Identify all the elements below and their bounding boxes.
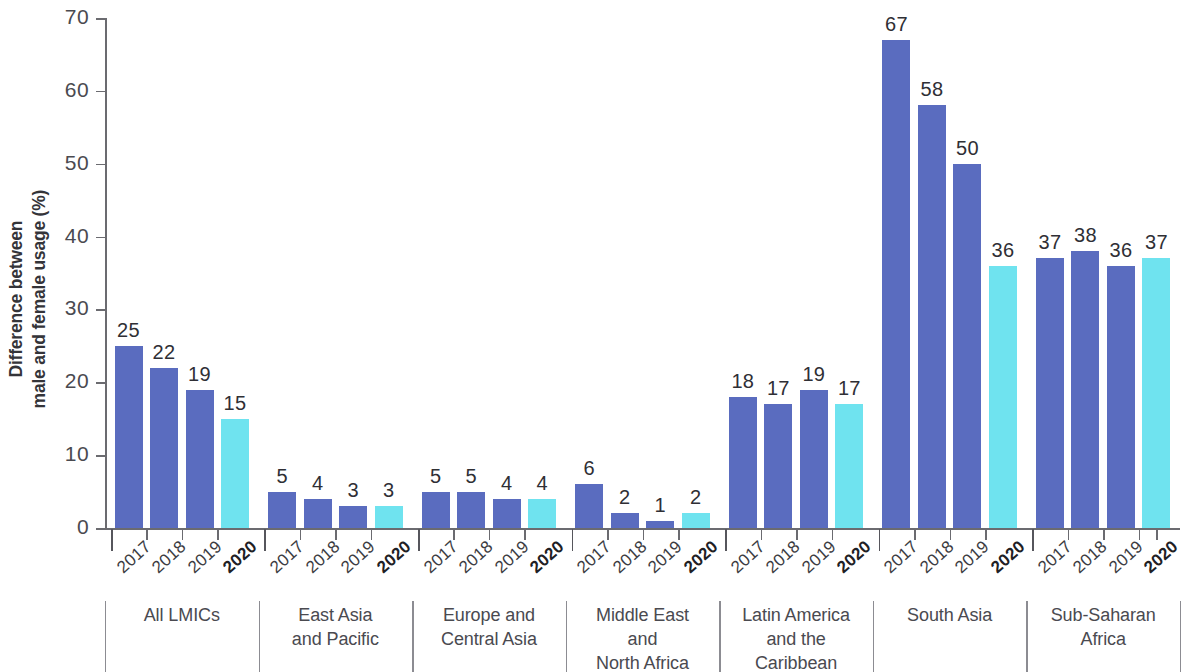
bar-rect (918, 105, 946, 528)
bar: 5 (268, 18, 296, 528)
x-axis-tick (796, 529, 798, 540)
bar: 3 (375, 18, 403, 528)
bar: 1 (646, 18, 674, 528)
bar-rect (1036, 258, 1064, 528)
x-axis-year-label: 2017 (881, 537, 923, 578)
x-axis-tick (489, 529, 491, 540)
bar-rect (115, 346, 143, 528)
y-axis-tick-label: 30 (41, 296, 89, 320)
group-name-line: and the (719, 628, 873, 652)
group-name-line: All LMICs (105, 604, 259, 628)
y-axis-tick-label: 60 (41, 78, 89, 102)
x-axis-tick (985, 529, 987, 540)
x-axis-year-label: 2018 (148, 537, 190, 578)
bar-rect (611, 513, 639, 528)
bar: 15 (221, 18, 249, 528)
group-name-line: South Asia (873, 604, 1027, 628)
x-axis-year-label: 2017 (420, 537, 462, 578)
bar: 17 (835, 18, 863, 528)
bar-value-label: 15 (224, 392, 247, 415)
bar-value-label: 1 (655, 494, 666, 517)
bar-value-label: 5 (276, 465, 287, 488)
bar-rect (339, 506, 367, 528)
y-axis-tick-label: 0 (41, 515, 89, 539)
bar-rect (1107, 266, 1135, 528)
bar-value-label: 3 (383, 479, 394, 502)
bar-rect (221, 419, 249, 528)
x-axis-year-label: 2019 (491, 537, 533, 578)
y-axis-tick: 0 (96, 528, 105, 530)
x-axis-tick (914, 529, 916, 540)
x-axis-year-label: 2017 (113, 537, 155, 578)
group-name-line: Central Asia (412, 628, 566, 652)
x-axis-tick (678, 529, 680, 540)
bar-value-label: 19 (188, 363, 211, 386)
bar-value-label: 37 (1039, 231, 1062, 254)
x-axis-tick (371, 529, 373, 540)
group-name-label: Sub-SaharanAfrica (1026, 604, 1180, 652)
x-axis-tick (832, 529, 834, 540)
group-name-label: Europe andCentral Asia (412, 604, 566, 652)
x-axis-tick (182, 529, 184, 540)
bar-rect (1142, 258, 1170, 528)
group-name-line: and (566, 628, 720, 652)
bar: 36 (1107, 18, 1135, 528)
x-axis-tick (1068, 529, 1070, 540)
bar: 5 (422, 18, 450, 528)
x-axis-group-tick (111, 529, 113, 551)
x-axis-year-label: 2019 (1105, 537, 1147, 578)
bar-value-label: 4 (312, 472, 323, 495)
x-axis-group-tick (1032, 529, 1034, 551)
group-name-label: Latin Americaand theCaribbean (719, 604, 873, 672)
x-axis-year-label: 2018 (916, 537, 958, 578)
x-axis-year-label: 2020 (526, 537, 568, 578)
bar-rect (375, 506, 403, 528)
bar: 4 (493, 18, 521, 528)
bar-value-label: 5 (430, 465, 441, 488)
group-name-line: Europe and (412, 604, 566, 628)
x-axis-group-tick (725, 529, 727, 551)
group-name-label: East Asiaand Pacific (259, 604, 413, 652)
group-name-line: Sub-Saharan (1026, 604, 1180, 628)
bars-container: 2522191554335544621218171917675850363738… (105, 18, 1180, 528)
bar: 67 (882, 18, 910, 528)
x-axis-year-label: 2018 (455, 537, 497, 578)
x-axis-tick (1156, 529, 1158, 540)
bar: 25 (115, 18, 143, 528)
bar: 19 (186, 18, 214, 528)
bar-value-label: 2 (619, 486, 630, 509)
x-axis-year-label: 2020 (219, 537, 261, 578)
x-axis-year-label: 2018 (302, 537, 344, 578)
y-axis-tick: 50 (96, 164, 105, 166)
x-axis-year-label: 2017 (727, 537, 769, 578)
group-name-label: All LMICs (105, 604, 259, 628)
x-axis-year-label: 2019 (645, 537, 687, 578)
bar: 18 (729, 18, 757, 528)
x-axis-year-label: 2019 (184, 537, 226, 578)
x-axis-tick (643, 529, 645, 540)
x-axis-year-label: 2020 (834, 537, 876, 578)
bar-rect (646, 521, 674, 528)
bar-value-label: 6 (584, 457, 595, 480)
bar-rect (1071, 251, 1099, 528)
bar-rect (268, 492, 296, 528)
bar-value-label: 17 (838, 377, 861, 400)
bar-value-label: 22 (153, 341, 176, 364)
y-axis-tick-label: 70 (41, 5, 89, 29)
x-axis-year-label: 2019 (798, 537, 840, 578)
bar: 17 (764, 18, 792, 528)
x-axis-group-tick (879, 529, 881, 551)
x-axis-tick (761, 529, 763, 540)
bar-value-label: 37 (1145, 231, 1168, 254)
bar-value-label: 25 (117, 319, 140, 342)
x-axis-year-label: 2019 (337, 537, 379, 578)
group-name-line: Caribbean (719, 652, 873, 672)
bar-value-label: 4 (501, 472, 512, 495)
x-axis-year-label: 2020 (680, 537, 722, 578)
bar-rect (882, 40, 910, 528)
x-axis-year-label: 2020 (987, 537, 1029, 578)
bar-rect (422, 492, 450, 528)
bar-rect (800, 390, 828, 528)
bar-value-label: 58 (920, 78, 943, 101)
bar-rect (493, 499, 521, 528)
